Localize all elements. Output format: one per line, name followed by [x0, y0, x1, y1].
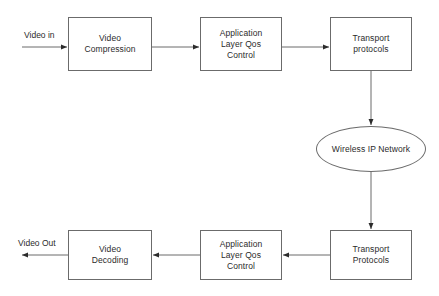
node-transport-protocols-bottom: Transport Protocols — [330, 230, 412, 280]
node-label-application-layer-qos-control-top: Application Layer Qos Control — [220, 28, 263, 61]
node-video-decoding: Video Decoding — [68, 230, 152, 280]
node-application-layer-qos-control-top: Application Layer Qos Control — [200, 17, 282, 71]
node-application-layer-qos-control-bottom: Application Layer Qos Control — [200, 230, 282, 280]
edge-label-video-out: Video Out — [18, 238, 56, 249]
node-label-wireless-ip-network: Wireless IP Network — [332, 144, 410, 155]
node-label-video-decoding: Video Decoding — [92, 244, 129, 266]
node-wireless-ip-network: Wireless IP Network — [316, 126, 426, 172]
node-label-application-layer-qos-control-bottom: Application Layer Qos Control — [220, 239, 263, 272]
diagram-canvas: Video Compression Application Layer Qos … — [0, 0, 439, 296]
node-label-transport-protocols-top: Transport protocols — [353, 33, 390, 55]
node-label-transport-protocols-bottom: Transport Protocols — [353, 244, 390, 266]
node-label-video-compression: Video Compression — [84, 33, 135, 55]
edge-label-video-in: Video in — [24, 30, 55, 41]
node-video-compression: Video Compression — [68, 17, 152, 71]
node-transport-protocols-top: Transport protocols — [330, 17, 412, 71]
